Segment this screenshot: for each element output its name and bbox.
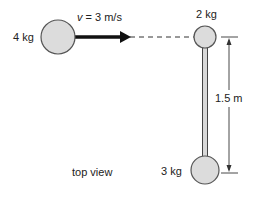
collision-diagram: 4 kg 2 kg 3 kg v = 3 m/s 1.5 m top view [0, 0, 255, 198]
arrowhead-up-icon [227, 38, 232, 45]
mass-label-4kg: 4 kg [13, 32, 34, 43]
mass-label-3kg: 3 kg [161, 166, 182, 177]
ball-2kg [194, 26, 216, 48]
mass-label-2kg: 2 kg [196, 9, 217, 20]
velocity-arrow-icon [75, 31, 131, 43]
dimension-label: 1.5 m [214, 93, 244, 104]
velocity-label: v = 3 m/s [77, 12, 122, 23]
arrowhead-down-icon [227, 165, 232, 172]
caption-top-view: top view [72, 167, 112, 178]
rigid-rod [203, 46, 208, 160]
dimension-line [221, 37, 238, 173]
ball-3kg [191, 156, 219, 184]
velocity-value: = 3 m/s [83, 11, 122, 23]
ball-4kg [41, 20, 75, 54]
